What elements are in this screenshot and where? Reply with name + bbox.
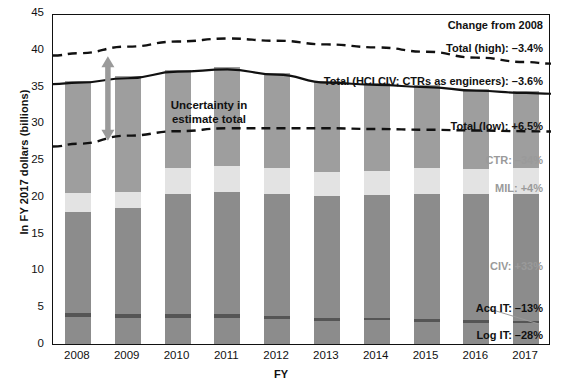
x-tick-label: 2017 [495,349,555,361]
annotation-acq-it: Acq IT: –13% [476,302,543,315]
uncertainty-arrow [101,56,114,140]
annotation-mil: MIL: +4% [495,182,543,195]
y-tick-label: 40 [4,43,44,55]
annotation-change-header: Change from 2008 [448,19,543,32]
y-tick-label: 25 [4,153,44,165]
plot-inner: Change from 2008 Total (high): –3.4% Tot… [53,15,549,344]
uncertainty-line-2: estimate total [172,113,246,125]
y-tick-label: 30 [4,116,44,128]
annotation-uncertainty: Uncertainty in estimate total [149,99,269,127]
annotation-civ: CIV: +33% [490,260,543,273]
y-tick-label: 35 [4,80,44,92]
y-tick-label: 15 [4,227,44,239]
y-tick-label: 0 [4,337,44,349]
annotation-ctr: CTR: –34% [486,154,543,167]
y-tick-label: 10 [4,263,44,275]
y-tick-label: 5 [4,300,44,312]
lines-overlay [53,15,551,346]
annotation-total-high: Total (high): –3.4% [446,42,543,55]
y-tick-label: 45 [4,6,44,18]
x-axis-title: FY [0,368,562,380]
annotation-log-it: Log IT: –28% [476,329,543,342]
annotation-total-low: Total (low): +6.5% [451,120,543,133]
uncertainty-line-1: Uncertainty in [171,99,248,111]
y-tick-label: 20 [4,190,44,202]
chart-figure: In FY 2017 dollars (billions) FY 0510152… [0,0,562,386]
annotation-total-mid: Total (HCI CIV; CTRs as engineers): –3.6… [324,75,543,88]
plot-area: Change from 2008 Total (high): –3.4% Tot… [52,14,550,345]
